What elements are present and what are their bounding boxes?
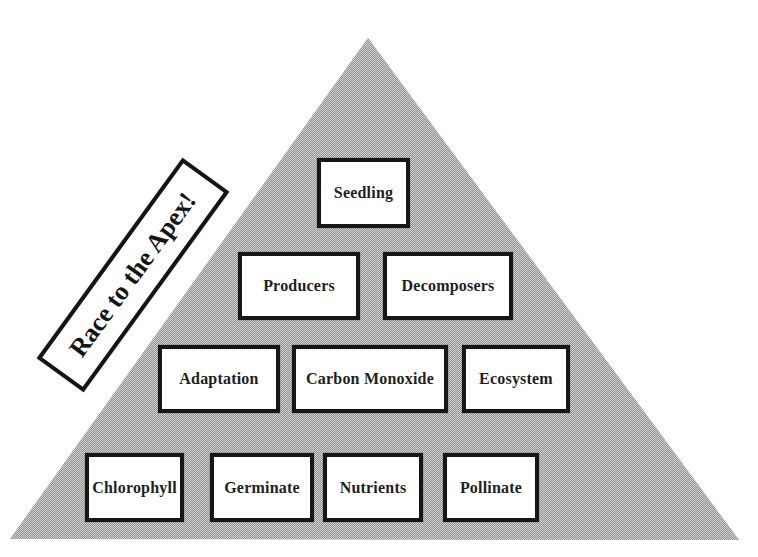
term-box-carbon-monoxide: Carbon Monoxide — [292, 345, 448, 413]
pyramid-diagram: Race to the Apex! Seedling Producers Dec… — [0, 0, 758, 557]
term-label: Adaptation — [179, 370, 258, 388]
term-label: Carbon Monoxide — [306, 370, 434, 388]
term-box-decomposers: Decomposers — [383, 252, 513, 320]
term-label: Seedling — [334, 184, 393, 202]
term-label: Chlorophyll — [92, 479, 177, 497]
term-label: Producers — [263, 277, 335, 295]
term-box-producers: Producers — [238, 252, 360, 320]
term-box-chlorophyll: Chlorophyll — [85, 453, 184, 522]
term-box-pollinate: Pollinate — [443, 453, 539, 522]
term-label: Pollinate — [460, 479, 522, 497]
term-label: Germinate — [224, 479, 300, 497]
term-label: Decomposers — [402, 277, 495, 295]
term-box-ecosystem: Ecosystem — [462, 345, 570, 413]
term-box-adaptation: Adaptation — [158, 345, 280, 413]
term-label: Nutrients — [340, 479, 407, 497]
term-box-nutrients: Nutrients — [323, 453, 423, 522]
term-box-seedling: Seedling — [317, 158, 410, 228]
term-box-germinate: Germinate — [210, 453, 314, 522]
term-label: Ecosystem — [479, 370, 553, 388]
